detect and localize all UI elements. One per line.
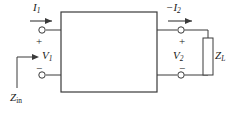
circuit-schematic-canvas bbox=[0, 0, 236, 114]
input-impedance-pointer-line bbox=[17, 57, 33, 88]
input-current-label: I1 bbox=[33, 2, 40, 14]
input-impedance-label: Zin bbox=[10, 92, 22, 104]
input-top-terminal bbox=[39, 27, 45, 33]
load-top-wire bbox=[185, 30, 209, 38]
input-current-arrow-head-icon bbox=[45, 18, 52, 24]
output-minus-sign: − bbox=[176, 63, 188, 74]
load-impedance-label: ZL bbox=[215, 50, 225, 62]
load-impedance-resistor bbox=[203, 38, 213, 75]
output-voltage-label: V2 bbox=[173, 50, 183, 62]
input-voltage-label: V1 bbox=[42, 50, 52, 62]
output-top-terminal bbox=[178, 27, 184, 33]
input-plus-sign: + bbox=[33, 36, 45, 47]
output-current-arrow-head-icon bbox=[185, 18, 192, 24]
two-port-network-box bbox=[61, 12, 157, 92]
input-impedance-pointer-arrow-icon bbox=[32, 54, 39, 60]
input-minus-sign: − bbox=[33, 63, 45, 74]
output-current-label: −I2 bbox=[166, 2, 181, 14]
output-plus-sign: + bbox=[176, 36, 188, 47]
two-port-network-figure: I1 −I2 V1 V2 ZL Zin + − + − bbox=[0, 0, 236, 114]
